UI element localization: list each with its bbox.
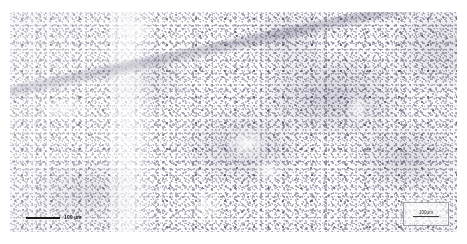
scale-bar-line — [26, 217, 60, 219]
tissue-pale-band — [10, 12, 457, 232]
tissue-texture-dark — [10, 12, 457, 232]
photomicrograph-figure: 100 µm 100µm — [0, 0, 467, 244]
field-vignette — [10, 12, 457, 232]
corner-scale-rule — [413, 216, 439, 217]
tissue-clearings — [10, 12, 457, 232]
corner-scale-label: 100µm — [419, 211, 433, 216]
scale-bar: 100 µm — [26, 215, 82, 220]
micrograph-field: 100 µm 100µm — [10, 12, 457, 232]
scale-bar-label: 100 µm — [64, 215, 82, 220]
tissue-streak — [10, 12, 457, 232]
tissue-density-mottle — [10, 12, 457, 232]
tissue-texture-fine — [10, 12, 457, 232]
tissue-texture-mid — [10, 12, 457, 232]
corner-scale-annotation: 100µm — [403, 202, 449, 226]
